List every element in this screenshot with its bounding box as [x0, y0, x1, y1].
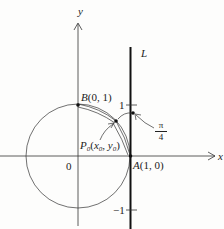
tick-minus-1-label: −1: [113, 205, 125, 216]
unit-circle-diagram: y x 0 L 1 −1 B(0, 1) A(1, 0) P0(x0, y0) …: [0, 0, 224, 229]
x-axis-label: x: [218, 151, 223, 162]
point-P0-label: P0(x0, y0): [80, 140, 120, 153]
point-A: [129, 154, 133, 158]
point-P0: [114, 119, 118, 123]
y-axis-label: y: [78, 6, 83, 17]
point-B: [76, 103, 80, 107]
tick-1-label: 1: [119, 100, 125, 111]
origin-label: 0: [66, 161, 72, 172]
line-L-label: L: [141, 48, 147, 59]
point-on-L: [131, 111, 135, 115]
pointer-angle-arrow: [136, 115, 154, 128]
point-A-label: A(1, 0): [133, 160, 164, 171]
angle-pi-over-4-label: π4: [155, 121, 167, 142]
pointer-P0-arrow: [100, 124, 113, 140]
diagram-graphics: [0, 0, 224, 229]
arc-B-P0: [78, 104, 116, 121]
point-B-label: B(0, 1): [81, 92, 112, 103]
